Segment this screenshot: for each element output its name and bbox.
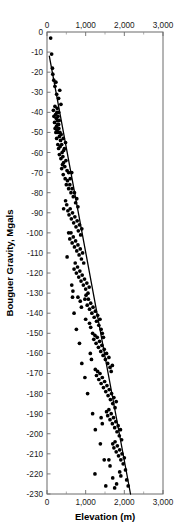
data-point: [89, 325, 93, 329]
data-point: [58, 88, 62, 92]
data-point: [71, 295, 75, 299]
data-point: [72, 221, 76, 225]
data-point: [75, 271, 79, 275]
data-point: [120, 452, 124, 456]
y-tick-label: -70: [31, 169, 43, 178]
data-point: [104, 358, 108, 362]
data-point: [93, 472, 97, 476]
data-point: [86, 392, 90, 396]
data-point: [95, 319, 99, 323]
y-tick-label: -150: [27, 329, 44, 338]
data-point: [67, 213, 71, 217]
data-point: [83, 297, 87, 301]
data-point: [113, 406, 117, 410]
data-point: [75, 197, 79, 201]
data-point: [57, 96, 61, 100]
data-point: [97, 346, 101, 350]
data-point: [65, 203, 69, 207]
data-point: [111, 402, 115, 406]
x-tick-label-top: 2,000: [114, 21, 135, 30]
data-point: [62, 149, 66, 153]
data-point: [73, 261, 77, 265]
data-point: [52, 108, 56, 112]
data-point: [74, 201, 78, 205]
x-tick-label-top: 0: [45, 21, 50, 30]
data-point: [88, 352, 92, 356]
data-point: [105, 384, 109, 388]
data-point: [118, 470, 122, 474]
data-point: [93, 309, 97, 313]
data-point: [56, 115, 60, 119]
data-point: [104, 390, 108, 394]
x-tick-label: 2,000: [114, 498, 135, 507]
data-point: [71, 195, 75, 199]
data-point: [71, 289, 75, 293]
data-point: [70, 241, 74, 245]
data-point: [108, 418, 112, 422]
data-point: [120, 438, 124, 442]
data-point: [65, 255, 69, 259]
data-point: [55, 110, 59, 114]
data-point: [81, 283, 85, 287]
data-point: [95, 374, 99, 378]
y-tick-label: -50: [31, 128, 43, 137]
data-point: [106, 394, 110, 398]
data-point: [78, 247, 82, 251]
y-tick-label: -120: [27, 269, 44, 278]
data-point: [76, 243, 80, 247]
data-point: [89, 301, 93, 305]
data-point: [50, 52, 54, 56]
data-point: [110, 392, 114, 396]
data-point: [121, 462, 125, 466]
y-tick-label: -200: [27, 430, 44, 439]
y-tick-label: -140: [27, 309, 44, 318]
data-point: [107, 458, 111, 462]
data-point: [107, 356, 111, 360]
data-point: [100, 331, 104, 335]
data-point: [58, 145, 62, 149]
data-point: [70, 217, 74, 221]
data-point: [100, 376, 104, 380]
data-point: [126, 484, 130, 488]
data-point: [114, 450, 118, 454]
y-axis-title: Bouguer Gravity, Mgals: [4, 210, 15, 317]
data-point: [73, 191, 77, 195]
data-point: [106, 414, 110, 418]
data-point: [99, 350, 103, 354]
data-point: [79, 233, 83, 237]
data-point: [99, 382, 103, 386]
data-point: [102, 458, 106, 462]
data-point: [117, 454, 121, 458]
data-point: [98, 339, 102, 343]
y-tick-label: -230: [27, 490, 44, 499]
plot-frame: [47, 32, 163, 494]
x-tick-label: 1,000: [75, 498, 96, 507]
data-point: [90, 311, 94, 315]
data-point: [53, 121, 57, 125]
data-point: [87, 285, 91, 289]
y-tick-label: -190: [27, 410, 44, 419]
data-point: [52, 115, 56, 119]
data-point: [79, 279, 83, 283]
data-point: [114, 420, 118, 424]
data-point: [58, 153, 62, 157]
data-point: [62, 207, 66, 211]
data-point: [84, 293, 88, 297]
data-point: [57, 119, 61, 123]
data-point: [125, 478, 129, 482]
x-axis-title: Elevation (m): [75, 511, 135, 522]
data-point: [78, 299, 82, 303]
data-point: [88, 321, 92, 325]
data-point: [54, 80, 58, 84]
data-point: [61, 137, 65, 141]
data-point: [68, 237, 72, 241]
x-tick-label: 3,000: [153, 498, 174, 507]
data-point: [76, 229, 80, 233]
data-point: [64, 199, 68, 203]
y-tick-label: -130: [27, 289, 44, 298]
data-point: [116, 444, 120, 448]
data-point: [68, 183, 72, 187]
plot-svg: 001,0001,0002,0002,0003,0003,0000-10-20-…: [0, 0, 188, 531]
data-point: [64, 159, 68, 163]
data-point: [119, 474, 123, 478]
